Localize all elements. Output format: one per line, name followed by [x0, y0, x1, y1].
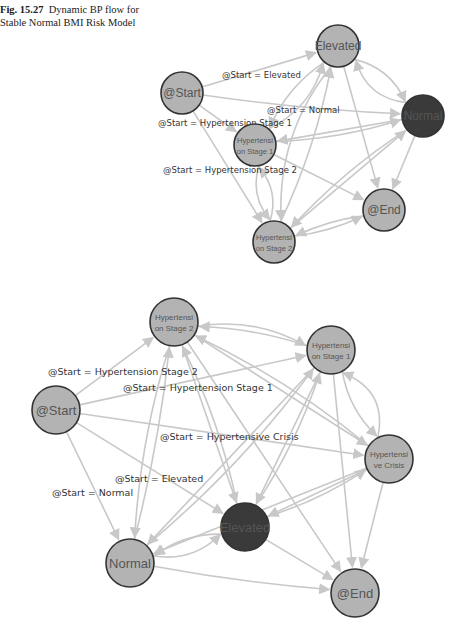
edge-label: @Start = Normal: [52, 487, 133, 498]
edge-label: @Start = Hypertension Stage 2: [48, 366, 198, 377]
edge-normal-to-end: [393, 135, 415, 188]
edge-normal-to-elevated: [356, 61, 407, 103]
node-label: @End: [337, 586, 373, 601]
node-label: @Start: [36, 403, 77, 418]
edge-elevated-to-normal: [354, 59, 405, 101]
node-end[interactable]: @End: [331, 569, 379, 617]
edge-crisis-to-elevated: [269, 469, 368, 516]
edge-ht2-to-elevated: [281, 68, 331, 222]
node-label: Hypertensi: [155, 313, 193, 322]
edge-ht1-to-ht2: [200, 327, 308, 346]
node-label: Normal: [109, 556, 151, 571]
node-circle: [150, 298, 198, 346]
node-label: Hypertensi: [312, 341, 350, 350]
node-normal[interactable]: Normal: [402, 95, 444, 137]
node-ht2[interactable]: Hypertension Stage 2: [150, 298, 198, 346]
node-circle: [307, 326, 355, 374]
edge-crisis-to-end: [361, 482, 383, 568]
node-label: on Stage 1: [312, 352, 351, 361]
edge-normal-to-end: [154, 566, 329, 589]
node-label: ve Crisis: [374, 461, 405, 470]
edge-elevated-to-normal: [155, 534, 222, 555]
node-label: Hypertensi: [370, 450, 408, 459]
edge-ht2-to-ht1: [259, 168, 273, 222]
node-ht2[interactable]: Hypertension Stage 2: [253, 221, 295, 263]
edge-start-to-normal: [66, 432, 118, 540]
edge-start-to-ht1: [79, 356, 305, 405]
edge-normal-to-ht1: [278, 120, 403, 142]
node-label: @End: [367, 203, 401, 217]
edge-label: @Start = Elevated: [115, 473, 203, 484]
edge-crisis-to-ht1: [343, 373, 379, 438]
node-circle: [234, 124, 276, 166]
node-elevated[interactable]: Elevated: [315, 25, 362, 67]
node-label: @Start: [163, 86, 201, 100]
node-label: Hypertensi: [237, 136, 273, 145]
node-ht1[interactable]: Hypertension Stage 1: [234, 124, 276, 166]
node-label: on Stage 1: [237, 147, 273, 156]
edge-elevated-to-ht2: [281, 66, 332, 220]
node-label: Elevated: [220, 520, 271, 535]
edge-label: @Start = Hypertensive Crisis: [160, 431, 299, 442]
node-normal[interactable]: Normal: [106, 539, 154, 587]
edge-label: @Start = Hypertension Stage 1: [123, 382, 273, 393]
node-label: Hypertensi: [256, 233, 292, 242]
node-crisis[interactable]: Hypertensive Crisis: [365, 435, 413, 483]
bottom-flow-graph: @Start = Hypertension Stage 2@Start = Hy…: [32, 298, 413, 617]
node-label: Normal: [404, 109, 443, 123]
edge-label: @Start = Hypertension Stage 1: [158, 118, 292, 128]
edge-end-to-ht2: [296, 216, 364, 236]
node-label: on Stage 2: [155, 324, 194, 333]
edge-normal-to-elevated: [153, 535, 220, 557]
node-end[interactable]: @End: [363, 189, 405, 231]
node-circle: [253, 221, 295, 263]
node-elevated[interactable]: Elevated: [220, 503, 271, 551]
node-label: on Stage 2: [256, 244, 292, 253]
node-label: Elevated: [315, 39, 362, 53]
edge-ht1-to-end: [333, 374, 352, 567]
edge-label: @Start = Elevated: [222, 70, 301, 80]
bp-flow-diagrams: @Start = Elevated@Start = Normal@Start =…: [0, 0, 463, 627]
node-ht1[interactable]: Hypertension Stage 1: [307, 326, 355, 374]
edge-label: @Start = Hypertension Stage 2: [163, 165, 297, 175]
top-flow-graph: @Start = Elevated@Start = Normal@Start =…: [158, 25, 444, 263]
node-circle: [365, 435, 413, 483]
node-start[interactable]: @Start: [32, 386, 80, 434]
edge-ht2-to-end: [294, 216, 362, 236]
node-start[interactable]: @Start: [161, 72, 203, 114]
edge-label: @Start = Normal: [267, 105, 340, 115]
